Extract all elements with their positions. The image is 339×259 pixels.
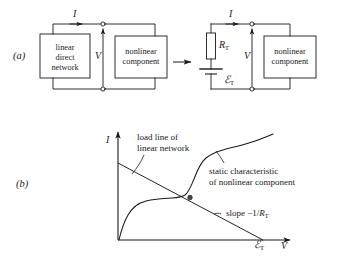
voltage-label-left: V: [95, 50, 101, 61]
annotation-static-line-1: static characteristic: [209, 166, 295, 177]
nonlinear-right-line-2: component: [264, 57, 316, 67]
leader-line-loadline: [132, 155, 144, 174]
leader-line-slope: [214, 213, 221, 214]
wire-left-bottom: [53, 78, 103, 89]
source-subscript: T: [230, 79, 234, 86]
annotation-static-characteristic: static characteristic of nonlinear compo…: [209, 166, 295, 189]
panel-a-tag: (a): [13, 50, 25, 62]
figure-drawing: [0, 0, 339, 259]
linear-network-line-3: network: [40, 63, 90, 73]
annotation-slope-prefix: slope: [226, 208, 247, 218]
leader-line-static: [216, 151, 224, 163]
nonlinear-component-label-right: nonlinear component: [264, 47, 316, 67]
current-label-right: I: [229, 8, 232, 19]
source-label-ET: ℰT: [224, 74, 234, 86]
nonlinear-right-line-1: nonlinear: [264, 47, 316, 57]
resistor-label-RT: RT: [219, 39, 229, 50]
annotation-load-line-2: linear network: [137, 143, 189, 154]
graph-x-tick-label-ET: ℰT: [254, 239, 264, 251]
terminal-node-bottom-left-circuit: [101, 87, 105, 91]
nonlinear-component-label-left: nonlinear component: [115, 47, 167, 67]
voltage-label-right: V: [244, 50, 250, 61]
linear-network-line-2: direct: [40, 53, 90, 63]
current-label-left: I: [73, 8, 76, 19]
linear-direct-network-label: linear direct network: [40, 43, 90, 73]
annotation-slope-symbol: R: [259, 208, 265, 218]
nonlinear-left-line-1: nonlinear: [115, 47, 167, 57]
annotation-load-line-1: load line of: [137, 132, 189, 143]
panel-b-tag: (b): [16, 178, 28, 190]
operating-point-dot: [188, 195, 193, 200]
figure-container: (a) (b) linear direct network nonlinear …: [0, 0, 339, 259]
resistor-subscript: T: [225, 44, 229, 51]
annotation-slope-subscript: T: [265, 212, 269, 219]
annotation-slope-value: −1/: [247, 208, 259, 218]
resistor-RT: [207, 33, 216, 59]
graph-y-axis-label: I: [106, 134, 109, 145]
wire-right-bottom: [103, 78, 155, 89]
nonlinear-left-line-2: component: [115, 57, 167, 67]
terminal-node-top-left-circuit: [101, 22, 105, 26]
annotation-load-line: load line of linear network: [137, 132, 189, 155]
wire-right-top: [103, 24, 155, 36]
graph-tick-subscript: T: [260, 244, 264, 251]
graph-x-axis-label: V: [281, 240, 287, 251]
annotation-slope: slope −1/RT: [226, 208, 269, 218]
wire-left-top: [53, 24, 103, 34]
terminal-node-top-right-circuit: [250, 22, 254, 26]
terminal-node-bottom-right-circuit: [250, 87, 254, 91]
linear-network-line-1: linear: [40, 43, 90, 53]
annotation-static-line-2: of nonlinear component: [209, 177, 295, 188]
